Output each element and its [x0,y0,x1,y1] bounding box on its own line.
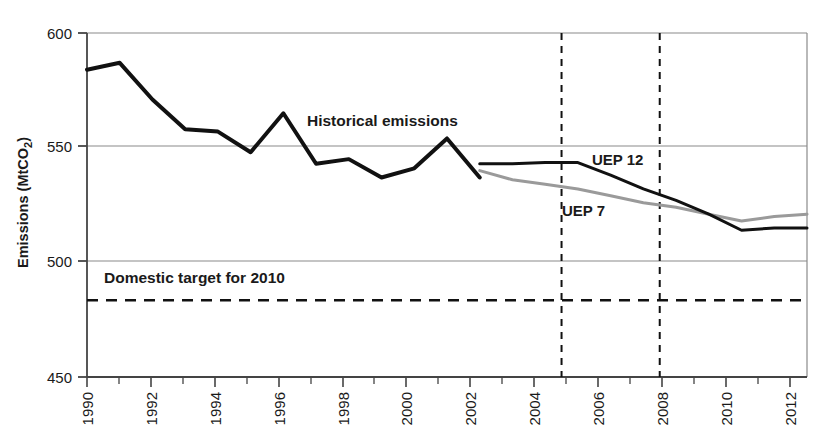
x-tick-label-2004: 2004 [526,392,543,425]
x-tick-label-1996: 1996 [271,392,288,425]
historical-emissions-label: Historical emissions [307,112,458,129]
y-axis-title-close: ) [15,137,31,142]
y-axis-title-base: Emissions (MtCO [15,148,31,268]
x-tick-label-1994: 1994 [207,392,224,425]
x-tick-label-1998: 1998 [335,392,352,425]
y-tick-label-500: 500 [47,253,72,270]
x-tick-label-2012: 2012 [782,392,799,425]
x-tick-label-1990: 1990 [79,392,96,425]
x-tick-label-1992: 1992 [143,392,160,425]
uep7-label: UEP 7 [562,202,605,219]
x-tick-label-2008: 2008 [654,392,671,425]
plot-background [87,33,807,377]
x-tick-label-2010: 2010 [718,392,735,425]
x-tick-label-2006: 2006 [590,392,607,425]
x-tick-label-2002: 2002 [462,392,479,425]
domestic-target-label: Domestic target for 2010 [104,269,285,286]
chart-canvas: 600 550 500 450 Emissions (MtCO2) [0,0,825,438]
x-axis-tick-labels: 1990 1992 1994 1996 1998 2000 2002 2004 … [79,392,799,425]
y-tick-label-600: 600 [47,25,72,42]
y-tick-label-550: 550 [47,138,72,155]
x-tick-label-2000: 2000 [398,392,415,425]
uep12-label: UEP 12 [592,151,643,168]
y-axis-ticks [78,33,87,377]
y-tick-label-450: 450 [47,369,72,386]
y-axis-title: Emissions (MtCO2) [15,137,34,268]
emissions-chart: 600 550 500 450 Emissions (MtCO2) [0,0,825,438]
svg-text:Emissions (MtCO2): Emissions (MtCO2) [15,137,34,268]
